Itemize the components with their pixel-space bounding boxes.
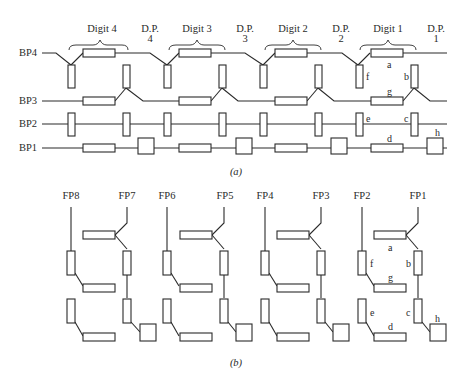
seg-b-label-bottom: b bbox=[406, 258, 411, 269]
seg-h-label-bottom: h bbox=[435, 313, 440, 324]
bp2-label: BP2 bbox=[19, 118, 37, 129]
seg-g-label-top: g bbox=[387, 86, 392, 97]
seg-d-label-bottom: d bbox=[388, 321, 393, 332]
digit-3-label: Digit 3 bbox=[182, 23, 211, 34]
seg-a-label-top: a bbox=[387, 59, 391, 70]
fp8-label: FP8 bbox=[63, 190, 80, 201]
fp6-label: FP6 bbox=[159, 190, 176, 201]
fp1-label: FP1 bbox=[410, 190, 427, 201]
seg-h-label-top: h bbox=[435, 127, 440, 138]
fp-digit-4 bbox=[67, 207, 156, 341]
bp3-label: BP3 bbox=[19, 95, 37, 106]
seg-f-label-top: f bbox=[366, 71, 369, 82]
caption-a: (a) bbox=[230, 166, 242, 177]
digit-2-label: Digit 2 bbox=[278, 23, 307, 34]
digit-4-label: Digit 4 bbox=[87, 23, 116, 34]
seg-f-label-bottom: f bbox=[370, 258, 373, 269]
seg-e-label-top: e bbox=[366, 113, 370, 124]
dp-2-number: 2 bbox=[338, 33, 343, 44]
bp4-label: BP4 bbox=[19, 47, 37, 58]
seg-g-label-bottom: g bbox=[388, 272, 393, 283]
seg-c-label-bottom: c bbox=[406, 307, 410, 318]
bp1-label: BP1 bbox=[19, 142, 37, 153]
fp4-label: FP4 bbox=[257, 190, 274, 201]
fp5-label: FP5 bbox=[217, 190, 234, 201]
bp4-segments bbox=[68, 49, 403, 88]
fp-digit-3 bbox=[163, 207, 252, 341]
digit-1-label: Digit 1 bbox=[373, 23, 402, 34]
seg-d-label-top: d bbox=[387, 133, 392, 144]
fp7-label: FP7 bbox=[119, 190, 136, 201]
seg-b-label-top: b bbox=[404, 71, 409, 82]
fp-digit-1 bbox=[358, 207, 446, 341]
dp-4-number: 4 bbox=[147, 33, 152, 44]
caption-b: (b) bbox=[230, 357, 242, 368]
seg-e-label-bottom: e bbox=[370, 307, 374, 318]
fp2-label: FP2 bbox=[354, 190, 371, 201]
fp3-label: FP3 bbox=[313, 190, 330, 201]
dp-3-number: 3 bbox=[242, 33, 247, 44]
dp-1-number: 1 bbox=[433, 33, 438, 44]
seg-a-label-bottom: a bbox=[388, 242, 392, 253]
seg-c-label-top: c bbox=[404, 113, 408, 124]
fp-digit-2 bbox=[261, 207, 349, 341]
